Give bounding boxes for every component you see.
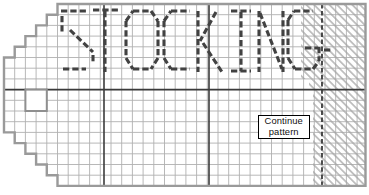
stitch-grid [0,0,369,195]
letter-N [259,11,283,72]
letter-I [231,11,251,71]
letter-T [93,10,119,72]
letter-S [61,11,93,69]
continue-pattern-label: Continue pattern [258,115,311,139]
continue-pattern-line2: pattern [269,127,299,138]
continue-pattern-line1: Continue [265,116,303,127]
pattern-chart: Continue pattern [0,0,369,195]
letter-O [126,11,158,69]
